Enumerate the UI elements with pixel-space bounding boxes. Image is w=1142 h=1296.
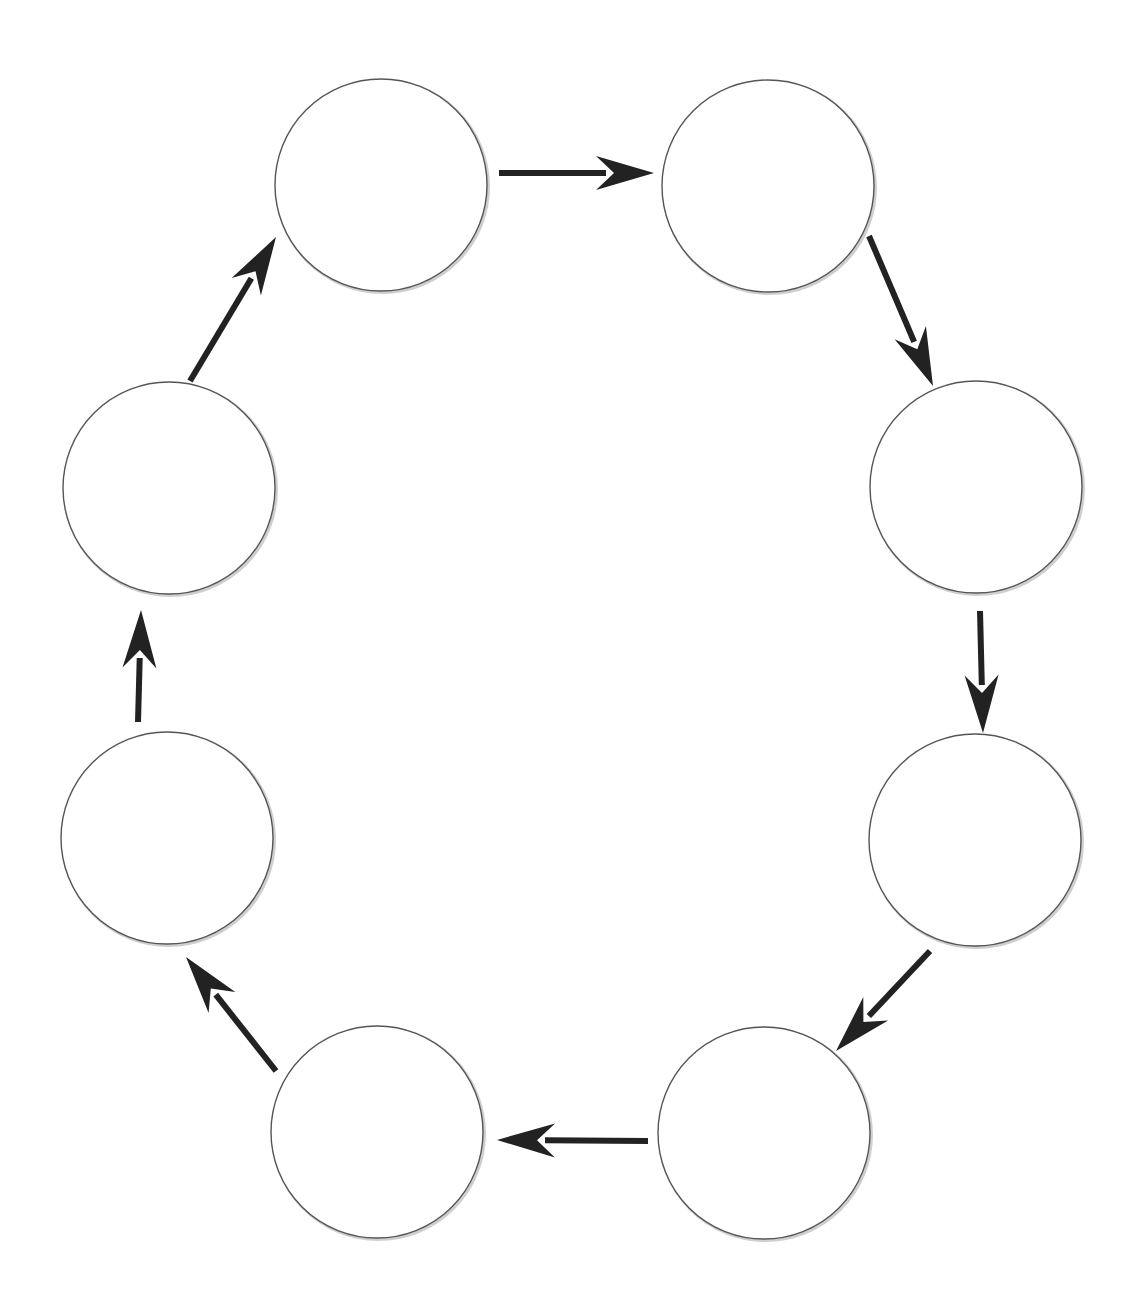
cycle-node-1 <box>275 79 489 293</box>
arrow-n3-to-n4 <box>965 611 999 733</box>
cycle-node-7 <box>61 732 275 946</box>
arrow-n7-to-n8 <box>123 610 157 722</box>
arrow-n1-to-n2 <box>499 156 654 190</box>
node-circle <box>275 79 487 291</box>
arrow-n8-to-n1 <box>190 237 276 381</box>
arrows-layer <box>123 156 999 1157</box>
node-circle <box>61 732 273 944</box>
cycle-node-5 <box>658 1027 872 1241</box>
arrowhead-icon <box>232 237 276 296</box>
arrow-shaft <box>190 278 251 381</box>
cycle-node-8 <box>63 382 277 596</box>
arrow-shaft <box>980 611 982 685</box>
cycle-node-2 <box>662 80 876 294</box>
cycle-node-4 <box>869 734 1083 948</box>
arrow-shaft <box>216 995 276 1071</box>
cycle-node-6 <box>271 1026 485 1240</box>
node-circle <box>870 381 1082 593</box>
node-circle <box>63 382 275 594</box>
nodes-layer <box>61 79 1084 1241</box>
cycle-diagram <box>0 0 1142 1296</box>
arrow-n4-to-n5 <box>836 951 930 1051</box>
node-circle <box>662 80 874 292</box>
arrowhead-icon <box>186 957 235 1013</box>
cycle-node-3 <box>870 381 1084 595</box>
node-circle <box>271 1026 483 1238</box>
arrow-shaft <box>545 1140 648 1141</box>
arrow-shaft <box>869 951 930 1016</box>
node-circle <box>658 1027 870 1239</box>
node-circle <box>869 734 1081 946</box>
arrow-n6-to-n7 <box>186 957 276 1071</box>
arrow-n2-to-n3 <box>869 236 933 386</box>
arrow-shaft <box>869 236 914 342</box>
arrow-shaft <box>138 658 140 722</box>
arrow-n5-to-n6 <box>497 1123 648 1157</box>
